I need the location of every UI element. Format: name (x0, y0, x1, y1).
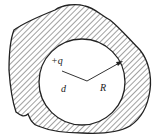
conductor-cavity-diagram: +q d R (0, 0, 153, 137)
radius-label: R (100, 83, 106, 93)
diagram-graphic (0, 0, 153, 137)
distance-label: d (61, 84, 66, 94)
charge-label: +q (51, 56, 63, 66)
cavity-boundary (39, 39, 125, 125)
